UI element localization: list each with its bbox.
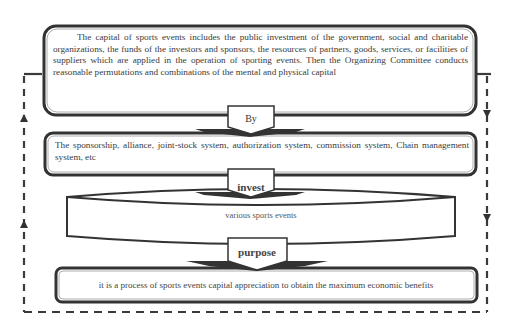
by-label: By xyxy=(229,113,273,124)
arrow-up-icon xyxy=(20,114,28,122)
arrow-down-icon xyxy=(483,110,491,118)
invest-label: invest xyxy=(229,181,273,193)
capital-text-content: The capital of sports events includes th… xyxy=(53,32,468,77)
purpose-label: purpose xyxy=(227,246,287,258)
arrow-up-icon xyxy=(20,220,28,228)
systems-text: The sponsorship, alliance, joint-stock s… xyxy=(55,140,469,163)
arrow-down-icon xyxy=(483,214,491,222)
goal-text: it is a process of sports events capital… xyxy=(60,280,472,292)
capital-text: The capital of sports events includes th… xyxy=(53,32,468,78)
events-text: various sports events xyxy=(66,210,456,222)
